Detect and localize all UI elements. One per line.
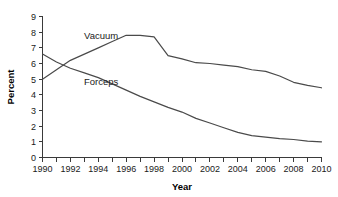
y-tick-label: 0 <box>31 153 36 163</box>
y-tick-label: 3 <box>31 106 36 116</box>
x-tick-label: 2004 <box>228 164 248 174</box>
y-axis-title: Percent <box>5 69 16 105</box>
chart-container: 0123456789 19901992199419961998200020022… <box>0 0 338 197</box>
x-tick-label: 2008 <box>284 164 304 174</box>
x-tick-label: 2006 <box>256 164 276 174</box>
x-axis-tick-labels: 1990199219941996199820002002200420062008… <box>32 164 331 174</box>
x-axis-ticks <box>43 158 322 162</box>
y-tick-label: 1 <box>31 137 36 147</box>
x-tick-label: 1990 <box>32 164 52 174</box>
x-tick-label: 1998 <box>144 164 164 174</box>
x-axis-title: Year <box>172 181 192 192</box>
x-tick-label: 2002 <box>200 164 220 174</box>
y-tick-label: 9 <box>31 12 36 22</box>
x-tick-label: 1992 <box>60 164 80 174</box>
y-tick-label: 7 <box>31 43 36 53</box>
percent-by-year-line-chart: 0123456789 19901992199419961998200020022… <box>0 0 338 197</box>
y-tick-label: 5 <box>31 75 36 85</box>
x-tick-label: 1996 <box>116 164 136 174</box>
y-tick-label: 8 <box>31 28 36 38</box>
x-tick-label: 1994 <box>88 164 108 174</box>
y-tick-label: 4 <box>31 90 36 100</box>
x-tick-label: 2000 <box>172 164 192 174</box>
y-tick-label: 2 <box>31 122 36 132</box>
y-tick-label: 6 <box>31 59 36 69</box>
series-label-forceps: Forceps <box>84 76 119 87</box>
x-tick-label: 2010 <box>311 164 331 174</box>
series-label-vacuum: Vacuum <box>84 30 118 41</box>
